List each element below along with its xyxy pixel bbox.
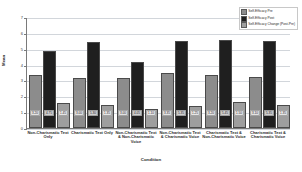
bar: 1.35 <box>277 105 290 128</box>
x-tick-label: Non-Charismatic Text Only <box>26 131 70 140</box>
x-tick-label: Non-Charismatic Text & Charismatic Voice <box>158 131 202 140</box>
bar: 1.35 <box>101 105 114 128</box>
bar-value-label: 4.05 <box>132 110 141 116</box>
bar: 5.30 <box>87 42 100 128</box>
y-tick-label: 5 <box>21 48 23 52</box>
bar-group: 3.355.351.25 <box>159 18 203 128</box>
bar: 3.20 <box>29 75 42 128</box>
x-axis-title: Condition <box>0 158 302 162</box>
legend-swatch-icon <box>241 9 247 15</box>
plot-area: 01234567 3.204.751.453.005.301.353.004.0… <box>26 18 290 129</box>
bar: 3.35 <box>161 73 174 128</box>
bar-value-label: 1.10 <box>146 110 155 116</box>
bars-layer: 3.204.751.453.005.301.353.004.051.103.35… <box>27 18 290 128</box>
bar: 4.05 <box>131 62 144 128</box>
y-tick-label: 1 <box>21 111 23 115</box>
bar: 3.00 <box>117 78 130 128</box>
legend-label: Self-Efficacy Pre <box>248 10 272 13</box>
bar-group: 3.105.351.35 <box>247 18 291 128</box>
bar: 3.00 <box>73 78 86 128</box>
bar-value-label: 1.35 <box>278 110 287 116</box>
bar-value-label: 1.50 <box>234 110 243 116</box>
x-tick-label: Charismatic Text Only <box>70 131 114 135</box>
legend: Self-Efficacy PreSelf-Efficacy PostSelf-… <box>239 7 298 30</box>
legend-swatch-icon <box>241 22 247 28</box>
bar: 5.35 <box>175 41 188 128</box>
legend-swatch-icon <box>241 16 247 22</box>
y-axis-title: Mean <box>2 55 6 66</box>
bar: 1.45 <box>57 103 70 128</box>
y-tick-label: 2 <box>21 95 23 99</box>
bar: 1.50 <box>233 102 246 128</box>
bar-value-label: 5.45 <box>220 110 229 116</box>
x-tick-label: Charismatic Text & Charismatic Voice <box>246 131 290 140</box>
bar-value-label: 3.00 <box>118 110 127 116</box>
y-tick-label: 0 <box>21 127 23 131</box>
legend-item[interactable]: Self-Efficacy Pre <box>241 9 295 15</box>
bar-value-label: 3.20 <box>30 110 39 116</box>
bar: 4.75 <box>43 51 56 128</box>
bar: 3.10 <box>249 77 262 128</box>
legend-label: Self-Efficacy Post <box>248 17 274 20</box>
bar-chart: Mean 01234567 3.204.751.453.005.301.353.… <box>0 0 302 172</box>
bar-value-label: 5.30 <box>88 110 97 116</box>
bar-value-label: 5.35 <box>176 110 185 116</box>
bar: 5.35 <box>263 41 276 128</box>
y-tick-label: 6 <box>21 32 23 36</box>
bar: 1.25 <box>189 106 202 128</box>
y-tick-label: 3 <box>21 79 23 83</box>
bar-value-label: 3.00 <box>74 110 83 116</box>
bar-group: 3.204.751.45 <box>27 18 71 128</box>
x-tick-label: Charismatic Text & Non-Charismatic Voice <box>202 131 246 140</box>
bar-value-label: 3.20 <box>206 110 215 116</box>
legend-label: Self-Efficacy Change (Post-Pre) <box>248 23 295 26</box>
y-tick-label: 4 <box>21 64 23 68</box>
bar-group: 3.004.051.10 <box>115 18 159 128</box>
legend-item[interactable]: Self-Efficacy Change (Post-Pre) <box>241 22 295 28</box>
bar: 5.45 <box>219 40 232 128</box>
legend-item[interactable]: Self-Efficacy Post <box>241 16 295 22</box>
bar-group: 3.205.451.50 <box>203 18 247 128</box>
y-tick-label: 7 <box>21 16 23 20</box>
bar: 3.20 <box>205 75 218 128</box>
bar-value-label: 4.75 <box>44 110 53 116</box>
bar-value-label: 1.35 <box>102 110 111 116</box>
x-tick-label: Non-Charismatic Text & Non-Charismatic V… <box>114 131 158 144</box>
bar-value-label: 5.35 <box>264 110 273 116</box>
bar-value-label: 1.25 <box>190 110 199 116</box>
bar-value-label: 1.45 <box>58 110 67 116</box>
bar-group: 3.005.301.35 <box>71 18 115 128</box>
bar-value-label: 3.35 <box>162 110 171 116</box>
bar-value-label: 3.10 <box>250 110 259 116</box>
bar: 1.10 <box>145 109 158 128</box>
